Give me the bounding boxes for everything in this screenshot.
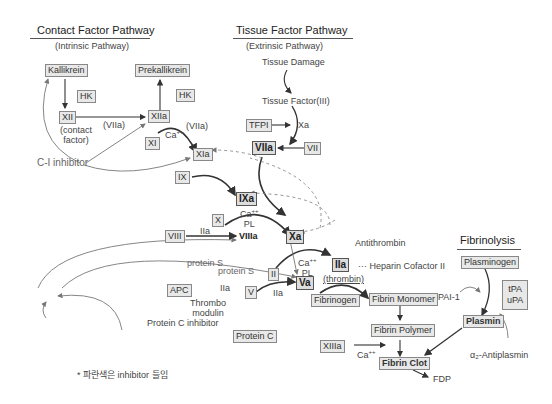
footnote: * 파란색은 inhibitor 들임 [77, 370, 168, 380]
protein-s-label: protein S [218, 266, 254, 276]
node-xa: Xa [286, 230, 304, 244]
node-ixa: IXa [236, 192, 257, 206]
heparin-cofactor-label: ··· Heparin Cofactor II [358, 261, 445, 271]
viia-label: (VIIa) [103, 120, 125, 130]
node-protein-c: Protein C [233, 330, 277, 343]
node-xiiia: XIIIa [320, 340, 345, 353]
tissue-factor-label: Tissue Factor(III) [262, 96, 330, 106]
node-plasminogen: Plasminogen [461, 256, 519, 269]
antiplasmin-label: α₂-Antiplasmin [470, 350, 528, 360]
contact-pathway-subtitle: (Intrinsic Pathway) [55, 41, 129, 51]
divider [30, 38, 150, 39]
node-xii: XII [59, 111, 76, 124]
xa-label: Xa [298, 120, 309, 130]
tissue-pathway-title: Tissue Factor Pathway [236, 24, 347, 36]
node-tfpi: TFPI [246, 119, 272, 132]
node-fibrin-clot: Fibrin Clot [379, 357, 430, 370]
node-fibrin-polymer: Fibrin Polymer [371, 324, 435, 337]
tissue-pathway-subtitle: (Extrinsic Pathway) [246, 41, 323, 51]
thrombomodulin-label: Thrombo modulin [190, 298, 226, 318]
node-ix: IX [175, 171, 190, 184]
c1-inhibitor-label: C-I inhibitor [37, 158, 88, 168]
iia-label: IIa [220, 283, 230, 293]
node-x: X [212, 214, 224, 227]
thrombin-label: (thrombin) [323, 274, 364, 284]
node-viii: VIII [165, 230, 185, 243]
node-v: V [245, 286, 257, 299]
iia-label: IIa [200, 226, 210, 236]
divider [457, 249, 521, 250]
node-kallikrein: Kallikrein [45, 64, 88, 77]
node-fibrinogen: Fibrinogen [311, 294, 360, 307]
node-va: Va [296, 276, 314, 290]
node-hk: HK [77, 90, 96, 103]
contact-pathway-title: Contact Factor Pathway [37, 24, 154, 36]
node-plasmin: Plasmin [463, 315, 504, 328]
node-hk: HK [176, 89, 195, 102]
ca-label: Ca++ [165, 130, 184, 140]
node-apc: APC [167, 284, 192, 297]
viiia-label: VIIIa [239, 231, 258, 241]
node-xi: XI [145, 137, 160, 150]
protein-c-inhibitor-label: Protein C inhibitor [147, 318, 219, 328]
node-vii: VII [304, 142, 321, 155]
coagulation-cascade-diagram: Contact Factor Pathway (Intrinsic Pathwa… [0, 0, 552, 404]
pai1-label: PAI-1 [438, 292, 460, 302]
ca-pl-label: Ca++PL [298, 258, 317, 278]
node-xia: XIa [193, 148, 213, 161]
ca-pl-label: Ca++PL [240, 209, 259, 229]
node-ii: II [268, 268, 279, 281]
node-viia: VIIa [252, 141, 276, 155]
node-tpa-upa: tPAuPA [502, 280, 528, 310]
antithrombin-label: Antithrombin [355, 238, 406, 248]
node-xiia: XIIa [148, 110, 170, 123]
divider [233, 38, 353, 39]
ca-label: Ca++ [357, 350, 376, 360]
node-iia: IIa [332, 258, 349, 272]
viia-label: (VIIa) [186, 121, 208, 131]
fdp-label: FDP [433, 374, 451, 384]
fibrinolysis-title: Fibrinolysis [460, 234, 515, 246]
node-fibrin-monomer: Fibrin Monomer [369, 293, 438, 306]
iia-label: IIa [273, 288, 283, 298]
node-prekallikrein: Prekallikrein [135, 64, 190, 77]
contact-factor-label: (contact factor) [60, 125, 92, 145]
tissue-damage-label: Tissue Damage [262, 57, 325, 67]
